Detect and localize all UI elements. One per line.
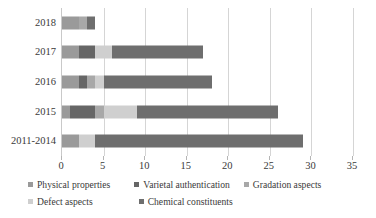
gridline: [353, 8, 354, 156]
bar-segment[interactable]: [79, 135, 96, 148]
bar-row: 2016: [62, 67, 353, 97]
bar-segment[interactable]: [137, 105, 278, 118]
bar-segment[interactable]: [87, 16, 95, 29]
x-axis-tick-label: 0: [58, 160, 63, 173]
chart-legend: Physical propertiesVarietal authenticati…: [0, 176, 376, 210]
legend-label: Chemical constituents: [148, 197, 233, 207]
bar-segment[interactable]: [79, 46, 96, 59]
bar-segment[interactable]: [95, 75, 103, 88]
legend-label: Defect aspects: [37, 197, 93, 207]
x-axis-tick-label: 25: [264, 160, 275, 173]
legend-row: Defect aspectsChemical constituents: [0, 193, 376, 210]
bar-row: 2011-2014: [62, 126, 353, 156]
bar-segment[interactable]: [62, 75, 79, 88]
x-axis-tick-label: 35: [347, 160, 358, 173]
bar-segment[interactable]: [62, 135, 79, 148]
bar-segment[interactable]: [95, 135, 303, 148]
x-axis-tick-label: 10: [139, 160, 150, 173]
stacked-bar[interactable]: [62, 135, 303, 148]
bar-segment[interactable]: [62, 105, 70, 118]
x-axis: 05101520253035: [61, 156, 353, 174]
bar-segment[interactable]: [104, 75, 212, 88]
x-axis-tick-label: 20: [222, 160, 233, 173]
legend-swatch-icon: [134, 182, 139, 187]
legend-item[interactable]: Defect aspects: [28, 197, 93, 207]
stacked-bar-chart: 20182017201620152011-2014 05101520253035…: [0, 0, 376, 218]
bar-segment[interactable]: [104, 105, 137, 118]
legend-swatch-icon: [28, 182, 33, 187]
plot-area: 20182017201620152011-2014: [61, 8, 353, 156]
legend-label: Physical properties: [37, 180, 110, 190]
legend-swatch-icon: [139, 199, 144, 204]
x-axis-tick-label: 30: [305, 160, 316, 173]
y-axis-label: 2011-2014: [11, 136, 56, 147]
y-axis-label: 2017: [35, 47, 56, 58]
stacked-bar[interactable]: [62, 46, 203, 59]
bar-segment[interactable]: [70, 105, 95, 118]
bar-segment[interactable]: [62, 46, 79, 59]
stacked-bar[interactable]: [62, 16, 95, 29]
legend-item[interactable]: Physical properties: [28, 180, 110, 190]
legend-swatch-icon: [28, 199, 33, 204]
bar-segment[interactable]: [79, 16, 87, 29]
legend-item[interactable]: Gradation aspects: [244, 180, 321, 190]
legend-label: Gradation aspects: [253, 180, 321, 190]
legend-label: Varietal authentication: [143, 180, 230, 190]
legend-row: Physical propertiesVarietal authenticati…: [0, 176, 376, 193]
y-axis-label: 2015: [35, 106, 56, 117]
y-axis-label: 2018: [35, 18, 56, 29]
bar-segment[interactable]: [87, 75, 95, 88]
bar-segment[interactable]: [79, 75, 87, 88]
legend-swatch-icon: [244, 182, 249, 187]
bar-row: 2015: [62, 97, 353, 127]
x-axis-tick-label: 5: [100, 160, 105, 173]
bar-segment[interactable]: [95, 105, 103, 118]
stacked-bar[interactable]: [62, 105, 278, 118]
bar-row: 2017: [62, 38, 353, 68]
bar-segment[interactable]: [62, 16, 79, 29]
y-axis-label: 2016: [35, 77, 56, 88]
bar-segment[interactable]: [95, 46, 112, 59]
bar-row: 2018: [62, 8, 353, 38]
bar-segment[interactable]: [112, 46, 203, 59]
stacked-bar[interactable]: [62, 75, 212, 88]
legend-item[interactable]: Varietal authentication: [134, 180, 230, 190]
legend-item[interactable]: Chemical constituents: [139, 197, 233, 207]
x-axis-tick-label: 15: [180, 160, 191, 173]
